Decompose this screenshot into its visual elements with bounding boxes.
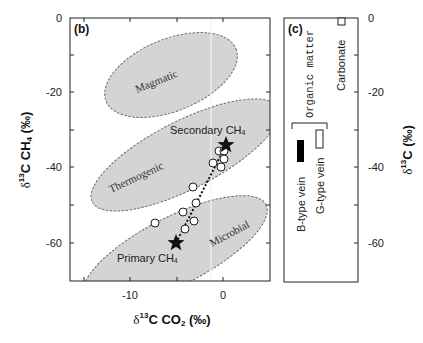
data-point [151, 219, 159, 227]
right-y-tick-label: -40 [368, 161, 384, 173]
x-axis-title: δ13C CO2 (‰) [133, 311, 210, 328]
x-tick-label: -10 [122, 289, 138, 301]
y-tick-label: -40 [46, 161, 62, 173]
g-type-vein-bar [316, 130, 323, 148]
primary-ch4-label: Primary CH4 [117, 252, 178, 264]
y-tick-label: -20 [46, 86, 62, 98]
b-type-vein-bar [297, 140, 304, 162]
data-point [192, 199, 200, 207]
right-y-tick-label: -60 [368, 237, 384, 249]
panel-b-label: (b) [74, 22, 89, 36]
organic-matter-label: Organic matter [304, 30, 316, 118]
secondary-ch4-label: Secondary CH4 [170, 124, 246, 136]
panel-c-y-ticks [354, 55, 358, 243]
panel-c-label: (c) [288, 22, 303, 36]
y-axis-title: δ13C CH4 (‰) [17, 112, 34, 189]
organic-matter-bracket [292, 123, 327, 129]
panel-c: (c) Carbonate Organic matter B-type vein… [284, 12, 415, 282]
y-tick-label: -60 [46, 237, 62, 249]
b-type-vein-label: B-type vein [295, 177, 307, 232]
x-tick-label: 0 [220, 289, 226, 301]
figure: Magmatic Thermogenic Microbial Secondary… [0, 0, 423, 343]
data-point [189, 183, 197, 191]
carbonate-label: Carbonate [335, 40, 347, 91]
y-tick-label: 0 [56, 12, 62, 24]
right-y-tick-label: 0 [368, 12, 374, 24]
g-type-vein-label: G-type vein [314, 158, 326, 214]
data-point [217, 163, 225, 171]
data-point [181, 225, 189, 233]
right-y-tick-label: -20 [368, 86, 384, 98]
carbonate-range-box [338, 18, 345, 25]
data-point [220, 155, 228, 163]
panel-b: Magmatic Thermogenic Microbial Secondary… [17, 12, 293, 328]
data-point [179, 208, 187, 216]
data-point [190, 217, 198, 225]
data-point [209, 159, 217, 167]
right-y-axis-title: δ13C (‰) [399, 125, 415, 175]
